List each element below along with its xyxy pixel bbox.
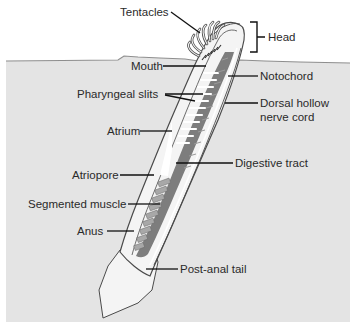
label-head: Head: [268, 31, 296, 44]
label-atriopore: Atriopore: [72, 169, 119, 182]
head-bracket: [250, 22, 265, 52]
label-dorsal-hollow-nerve-cord-2: nerve cord: [260, 111, 314, 124]
label-post-anal-tail: Post-anal tail: [180, 263, 246, 276]
label-atrium: Atrium: [107, 125, 140, 138]
label-notochord: Notochord: [260, 70, 313, 83]
label-digestive-tract: Digestive tract: [235, 157, 308, 170]
lancelet-diagram: Tentacles Head Mouth Notochord Pharyngea…: [0, 0, 355, 327]
label-pharyngeal-slits: Pharyngeal slits: [77, 88, 158, 101]
label-mouth: Mouth: [131, 60, 163, 73]
label-tentacles: Tentacles: [120, 6, 169, 19]
label-dorsal-hollow-nerve-cord-1: Dorsal hollow: [260, 97, 329, 110]
label-anus: Anus: [77, 225, 103, 238]
label-segmented-muscle: Segmented muscle: [28, 198, 126, 211]
